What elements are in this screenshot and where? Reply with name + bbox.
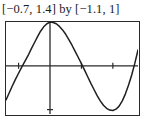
graph-window-figure: [−0.7, 1.4] by [−1.1, 1] <box>0 0 146 122</box>
plot-frame <box>5 21 140 116</box>
x-axis-group <box>6 63 138 69</box>
y-axis-group <box>47 22 53 114</box>
viewing-window-caption: [−0.7, 1.4] by [−1.1, 1] <box>2 1 144 18</box>
plot-canvas <box>6 22 138 114</box>
